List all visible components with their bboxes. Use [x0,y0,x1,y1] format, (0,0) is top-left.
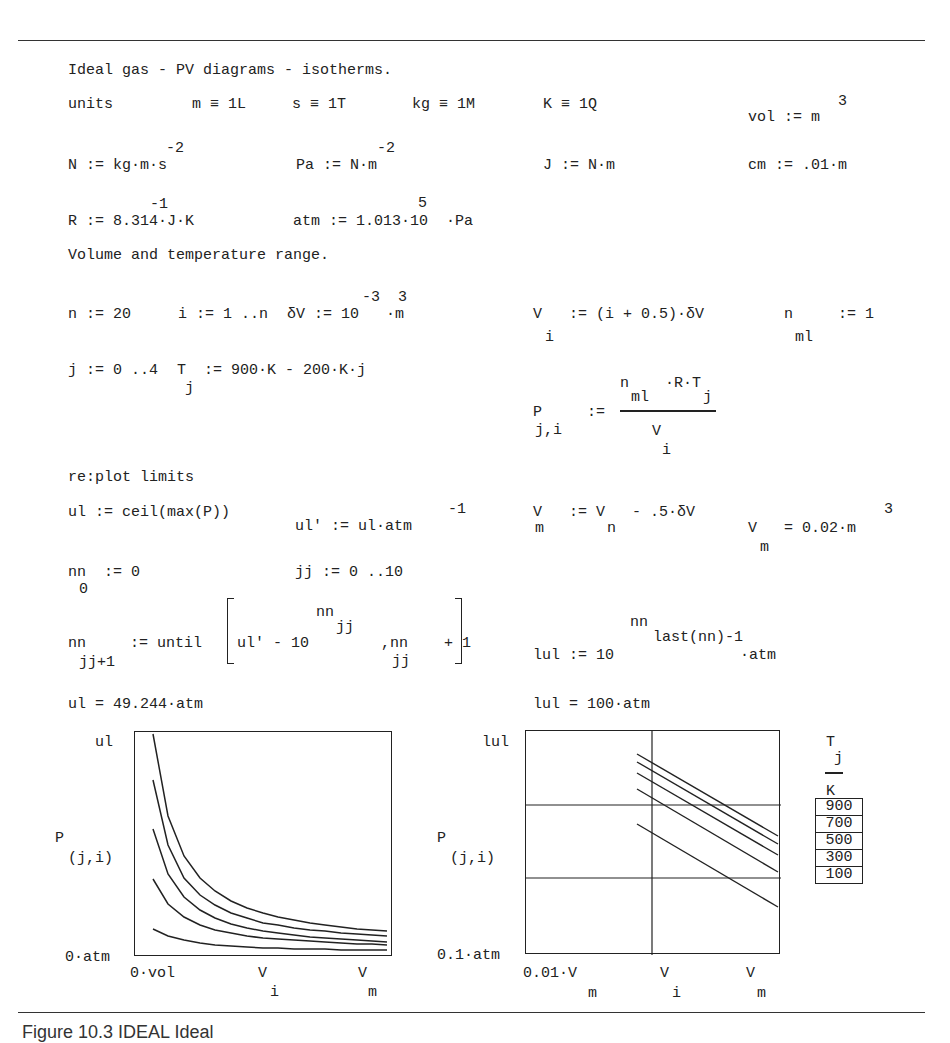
unit-m: m ≡ 1L [192,97,246,112]
def-n: n := 20 [68,307,131,322]
def-Vm: V := V - .5·δV [533,505,695,520]
figure-caption: Figure 10.3 IDEAL Ideal [22,1022,213,1043]
def-nn-lhs-sub: jj+1 [79,655,115,670]
plot2-y-label-sub: (j,i) [450,851,495,866]
bracket-left [227,598,234,664]
def-Vm-sub: m n [535,521,616,536]
plot1-x-left: 0·vol [130,966,175,981]
def-N-exp: -2 [166,141,184,156]
legend-value: 100 [816,867,862,883]
def-lul-sup1: nn [630,615,648,630]
result-lul: lul = 100·atm [533,697,650,712]
def-nml: n := 1 [784,307,874,322]
def-P-den-sub: i [662,443,671,458]
plot2-y-label: P [437,831,446,846]
def-dV: δV := 10 ·m [287,307,404,322]
result-Vm: V = 0.02·m [748,521,856,536]
def-nn0: nn := 0 [68,565,140,580]
legend-value: 900 [816,799,862,816]
def-cm: cm := .01·m [748,158,847,173]
legend-value: 300 [816,850,862,867]
legend-header: T [826,735,835,750]
plot2-x-right: V [746,966,755,981]
def-J: J := N·m [543,158,615,173]
plot2-x-mid: V [660,966,669,981]
plot1-y-top: ul [95,735,113,750]
plot2-x-left: 0.01·V [523,966,577,981]
def-P-assign: := [587,405,605,420]
plot1-x-right: V [358,966,367,981]
def-nn-arg: ul' - 10 ,nn + 1 [237,636,471,651]
def-nml-sub: ml [795,330,813,345]
def-nn-arg-sup2: jj [336,620,354,635]
def-Vi-sub: i [545,330,554,345]
plot-linear-curves [135,732,393,957]
def-Tj-sub: j [185,381,194,396]
legend-table: 900 700 500 300 100 [815,798,863,884]
def-nn0-sub: 0 [79,582,88,597]
section-limits: re:plot limits [68,470,194,485]
def-ulp-exp: -1 [448,502,466,517]
legend-value: 500 [816,833,862,850]
plot-log [525,730,780,954]
def-j: j := 0 ..4 [68,363,158,378]
plot1-y-label: P [55,831,64,846]
plot-log-curves [526,731,781,955]
plot1-x-right-sub: m [368,985,377,1000]
def-ul: ul := ceil(max(P)) [68,505,230,520]
def-atm-exp: 5 [418,196,427,211]
unit-kg: kg ≡ 1M [412,97,475,112]
def-lul: lul := 10 ·atm [533,648,776,663]
plot1-x-mid-sub: i [270,985,279,1000]
def-jj: jj := 0 ..10 [295,565,403,580]
fraction-bar [620,410,716,412]
def-P-den: V [652,424,661,439]
result-Vm-sub: m [760,540,769,555]
def-Vi: V := (i + 0.5)·δV [533,307,704,322]
def-P-sub: j,i [535,423,562,438]
def-atm: atm := 1.013·10 ·Pa [293,214,473,229]
plot2-x-right-sub: m [757,986,766,1001]
def-nn-arg-sup1: nn [316,605,334,620]
def-nn-arg-sub: jj [392,654,410,669]
units-label: units [68,97,113,112]
bracket-right [455,598,462,664]
result-ul: ul = 49.244·atm [68,697,203,712]
def-Pa: Pa := N·m [296,158,377,173]
result-Vm-exp: 3 [884,502,893,517]
def-P-lhs: P [533,405,542,420]
plot2-y-top: lul [482,735,509,750]
plot2-y-bottom: 0.1·atm [437,948,500,963]
legend-unit: K [826,784,835,799]
top-rule [18,40,925,41]
def-dV-exp: -3 3 [362,290,407,305]
def-vol: vol := m [748,110,820,125]
bottom-rule [18,1012,925,1013]
plot1-x-mid: V [258,966,267,981]
plot2-x-mid-sub: i [672,986,681,1001]
def-Tj: T := 900·K - 200·K·j [177,363,366,378]
plot-linear [134,731,392,956]
def-P-num-sub: ml j [631,390,712,405]
def-nn-lhs: nn [68,636,86,651]
plot1-y-label-sub: (j,i) [68,851,113,866]
def-Pa-exp: -2 [377,141,395,156]
plot1-y-bottom: 0·atm [65,950,110,965]
legend-divider [825,772,843,774]
unit-K: K ≡ 1Q [543,97,597,112]
def-N: N := kg·m·s [68,158,167,173]
def-lul-sup2: last(nn)-1 [653,630,743,645]
unit-s: s ≡ 1T [292,97,346,112]
def-R: R := 8.314·J·K [68,214,194,229]
def-R-exp: -1 [150,197,168,212]
plot2-x-left-sub: m [588,986,597,1001]
section-range: Volume and temperature range. [68,248,329,263]
def-nn-rhs: := until [130,636,202,651]
def-i: i := 1 ..n [178,307,268,322]
def-vol-exp: 3 [838,94,847,109]
legend-value: 700 [816,816,862,833]
legend-header-sub: j [834,751,843,766]
def-ulp: ul' := ul·atm [295,519,412,534]
doc-title: Ideal gas - PV diagrams - isotherms. [68,63,392,78]
